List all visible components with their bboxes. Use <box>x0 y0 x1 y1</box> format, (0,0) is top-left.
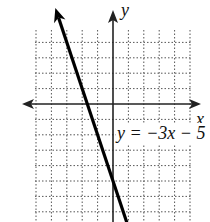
coordinate-plane <box>0 0 210 222</box>
plotted-line <box>54 8 128 222</box>
equation-label: y = −3x − 5 <box>116 123 206 144</box>
y-axis-label: y <box>121 0 129 21</box>
